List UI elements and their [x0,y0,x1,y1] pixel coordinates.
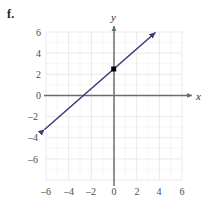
x-axis-label: x [196,90,201,102]
x-tick-label-0: 0 [106,186,122,197]
x-tick-label-6: 6 [174,186,190,197]
x-tick-label-2: 2 [129,186,145,197]
x-tick-label-4: 4 [151,186,167,197]
y-tick-label-4: 4 [25,48,41,59]
x-tick-label-neg6: –6 [38,186,54,197]
y-tick-label-0: 0 [25,90,41,101]
y-tick-label-neg4: –4 [22,132,38,143]
y-tick-label-neg2: –2 [22,111,38,122]
figure-container: f. [0,0,212,209]
x-tick-label-neg4: –4 [61,186,77,197]
y-tick-label-neg6: –6 [22,154,38,165]
y-tick-label-6: 6 [25,27,41,38]
point-marker-y-intercept [111,67,116,72]
x-tick-label-neg2: –2 [83,186,99,197]
y-tick-label-2: 2 [25,69,41,80]
y-axis-label: y [111,11,116,23]
